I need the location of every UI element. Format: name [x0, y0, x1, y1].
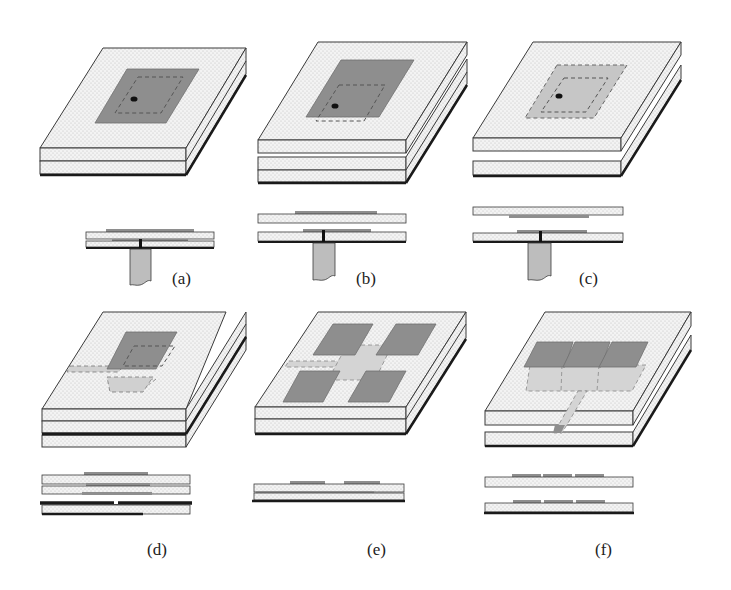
feed-probe-point [131, 96, 138, 101]
panel-d-3d-view [42, 312, 246, 447]
panel-b-3d-view [258, 42, 467, 183]
panel-d-label: (d) [147, 540, 167, 560]
panel-b-cross-section [258, 211, 406, 280]
panel-e-cross-section [252, 481, 405, 501]
panel-a-3d-view [40, 48, 246, 175]
panel-a-cross-section [86, 229, 214, 285]
panel-c-3d-view [473, 42, 681, 176]
panel-d-cross-section [40, 472, 192, 514]
panel-f-cross-section [484, 474, 634, 513]
coax-feed [130, 249, 151, 285]
panel-a-label: (a) [172, 269, 191, 289]
panel-c-label: (c) [579, 269, 598, 289]
panel-c-cross-section [473, 207, 623, 280]
panel-f-label: (f) [595, 540, 612, 560]
coupling-aperture [114, 501, 118, 504]
panel-e-label: (e) [367, 540, 386, 560]
diagram-canvas [0, 0, 731, 590]
panel-e-3d-view [255, 312, 466, 434]
panel-f-3d-view [485, 312, 691, 446]
panel-b-label: (b) [356, 269, 376, 289]
